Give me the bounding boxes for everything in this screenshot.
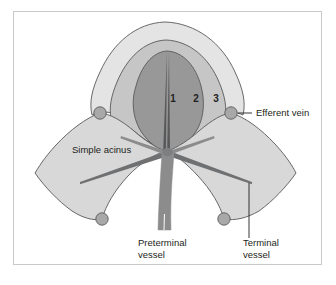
terminal-vessel-label-line2: vessel <box>243 249 270 260</box>
zone-1-number: 1 <box>170 93 176 104</box>
simple-acinus-label: Simple acinus <box>72 144 131 155</box>
efferent-vein-node-top-right <box>225 107 237 119</box>
figure-root: 1 2 3 Simple acinus Efferent vein Preter… <box>0 0 336 285</box>
preterminal-vessel-label-line2: vessel <box>138 249 165 260</box>
preterminal-vessel-stem <box>158 152 174 230</box>
efferent-vein-label: Efferent vein <box>256 107 309 118</box>
preterminal-vessel-notch <box>164 214 165 230</box>
zone-3-number: 3 <box>213 93 219 104</box>
terminal-vessel-label-line1: Terminal <box>243 237 279 248</box>
vessel-junction <box>162 148 172 156</box>
preterminal-vessel-label-line1: Preterminal <box>138 237 187 248</box>
efferent-vein-node-bottom-right <box>218 213 230 225</box>
efferent-vein-node-top-left <box>94 107 106 119</box>
efferent-vein-node-bottom-left <box>96 213 108 225</box>
zone-2-number: 2 <box>193 93 199 104</box>
acinus-diagram: 1 2 3 Simple acinus Efferent vein Preter… <box>0 0 336 285</box>
